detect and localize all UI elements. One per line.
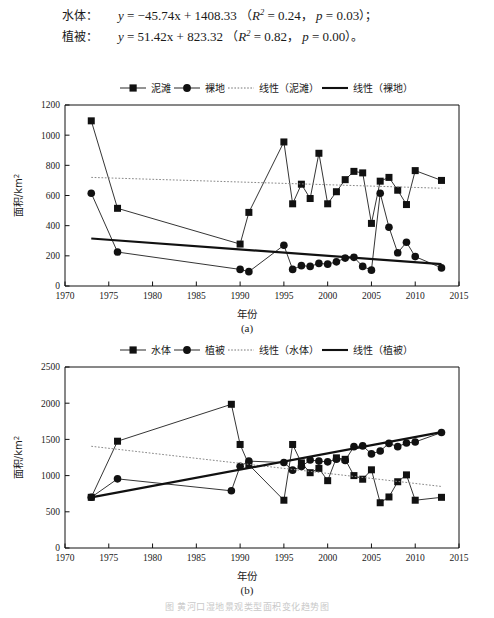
data-point-circle[interactable] xyxy=(385,223,393,231)
data-point-square[interactable] xyxy=(315,150,322,157)
data-point-circle[interactable] xyxy=(411,253,419,261)
data-point-circle[interactable] xyxy=(289,266,297,274)
data-point-square[interactable] xyxy=(289,441,296,448)
data-point-circle[interactable] xyxy=(315,260,323,268)
data-point-square[interactable] xyxy=(289,200,296,207)
data-point-square[interactable] xyxy=(438,494,445,501)
data-point-square[interactable] xyxy=(315,465,322,472)
data-point-circle[interactable] xyxy=(87,189,95,197)
legend-entry-4[interactable]: 线性（植被） xyxy=(322,344,413,356)
legend-entry-1[interactable]: 泥滩 xyxy=(120,82,171,94)
data-point-square[interactable] xyxy=(394,187,401,194)
data-point-square[interactable] xyxy=(412,167,419,174)
data-point-square[interactable] xyxy=(333,188,340,195)
data-point-circle[interactable] xyxy=(236,266,244,274)
data-point-circle[interactable] xyxy=(333,258,341,266)
x-tick-label-2015: 2015 xyxy=(450,291,469,301)
data-point-square[interactable] xyxy=(307,469,314,476)
legend-entry-2[interactable]: 裸地 xyxy=(174,82,225,94)
data-point-square[interactable] xyxy=(114,205,121,212)
equation-body-vegetation: y = 51.42x + 823.32 （R2 = 0.82， p = 0.00… xyxy=(118,27,363,45)
data-point-square[interactable] xyxy=(245,209,252,216)
data-point-square[interactable] xyxy=(324,200,331,207)
data-point-circle[interactable] xyxy=(368,266,376,274)
data-point-square[interactable] xyxy=(228,401,235,408)
stats-close-vegetation: ）。 xyxy=(345,30,363,44)
data-point-circle[interactable] xyxy=(298,262,306,270)
legend-entry-4[interactable]: 线性（裸地） xyxy=(322,82,413,94)
data-point-square[interactable] xyxy=(368,220,375,227)
data-point-square[interactable] xyxy=(403,201,410,208)
data-point-square[interactable] xyxy=(377,178,384,185)
data-point-square[interactable] xyxy=(114,438,121,445)
x-tick-label-2005: 2005 xyxy=(362,553,381,563)
data-point-circle[interactable] xyxy=(341,457,349,465)
y-tick-label-500: 500 xyxy=(46,507,61,517)
data-point-square[interactable] xyxy=(237,241,244,248)
data-point-square[interactable] xyxy=(403,471,410,478)
data-point-square[interactable] xyxy=(350,168,357,175)
data-point-circle[interactable] xyxy=(394,443,402,451)
data-point-circle[interactable] xyxy=(403,439,411,447)
legend-entry-2[interactable]: 植被 xyxy=(174,344,225,356)
data-point-circle[interactable] xyxy=(333,456,341,464)
data-point-circle[interactable] xyxy=(114,248,122,256)
data-point-circle[interactable] xyxy=(114,475,122,483)
stats-open-vegetation: （ xyxy=(226,30,238,44)
data-point-circle[interactable] xyxy=(324,458,332,466)
data-point-square[interactable] xyxy=(377,499,384,506)
data-point-circle[interactable] xyxy=(298,463,306,471)
chart-a-xlabel: 年份 xyxy=(0,306,494,321)
data-point-square[interactable] xyxy=(324,477,331,484)
data-point-square[interactable] xyxy=(359,169,366,176)
y-tick-label-1500: 1500 xyxy=(41,435,60,445)
data-point-circle[interactable] xyxy=(280,241,288,249)
data-point-square[interactable] xyxy=(368,466,375,473)
data-point-circle[interactable] xyxy=(368,450,376,458)
data-point-circle[interactable] xyxy=(438,264,446,272)
data-point-circle[interactable] xyxy=(411,438,419,446)
x-tick-label-2000: 2000 xyxy=(318,291,337,301)
data-point-square[interactable] xyxy=(438,177,445,184)
data-point-circle[interactable] xyxy=(324,260,332,268)
data-point-circle[interactable] xyxy=(359,263,367,271)
data-point-square[interactable] xyxy=(280,138,287,145)
equation-label-vegetation: 植被： xyxy=(0,27,118,44)
legend-entry-1[interactable]: 水体 xyxy=(120,345,171,356)
x-tick-label-2000: 2000 xyxy=(318,553,337,563)
data-point-circle[interactable] xyxy=(245,457,253,465)
data-point-circle[interactable] xyxy=(394,249,402,257)
x-tick-label-2015: 2015 xyxy=(450,553,469,563)
data-point-square[interactable] xyxy=(280,497,287,504)
legend-entry-3[interactable]: 线性（泥滩） xyxy=(228,82,319,94)
data-point-circle[interactable] xyxy=(306,263,314,271)
data-point-square[interactable] xyxy=(412,497,419,504)
data-point-circle[interactable] xyxy=(376,189,384,197)
y-tick-label-1000: 1000 xyxy=(41,131,60,141)
y-tick-label-200: 200 xyxy=(46,251,61,261)
r2-value-vegetation: = 0.82 xyxy=(254,29,287,44)
data-point-circle[interactable] xyxy=(228,487,236,495)
data-point-square[interactable] xyxy=(88,117,95,124)
legend-marker-circle xyxy=(183,84,191,92)
data-point-circle[interactable] xyxy=(315,457,323,465)
data-point-square[interactable] xyxy=(359,476,366,483)
data-point-circle[interactable] xyxy=(376,447,384,455)
p-value-vegetation: = 0.00 xyxy=(312,29,345,44)
x-tick-label-2010: 2010 xyxy=(406,291,425,301)
x-tick-label-1995: 1995 xyxy=(274,553,293,563)
trendline-线性（植被） xyxy=(91,432,441,497)
data-point-circle[interactable] xyxy=(245,268,253,276)
data-point-square[interactable] xyxy=(385,493,392,500)
data-point-square[interactable] xyxy=(342,176,349,183)
legend-label-2: 植被 xyxy=(205,344,225,356)
x-tick-label-1985: 1985 xyxy=(187,291,206,301)
data-point-square[interactable] xyxy=(237,441,244,448)
data-point-circle[interactable] xyxy=(403,238,411,246)
data-point-square[interactable] xyxy=(307,195,314,202)
legend-entry-3[interactable]: 线性（水体） xyxy=(228,344,319,356)
y-tick-label-800: 800 xyxy=(46,161,61,171)
x-tick-label-1980: 1980 xyxy=(143,291,162,301)
data-point-square[interactable] xyxy=(385,174,392,181)
data-point-square[interactable] xyxy=(350,472,357,479)
